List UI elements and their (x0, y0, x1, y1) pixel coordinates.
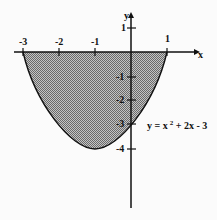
equation-base: y = x (147, 120, 168, 131)
x-tick-label: -3 (19, 36, 27, 47)
equation-rest: + 2x - 3 (173, 120, 207, 131)
y-tick-label: -1 (116, 71, 124, 82)
x-tick-label: 1 (165, 33, 170, 44)
x-tick-label: -1 (91, 36, 99, 47)
y-tick-label: -2 (116, 94, 124, 105)
y-tick-label: -3 (116, 118, 124, 129)
y-tick-label: 1 (121, 22, 126, 33)
y-tick-label: -4 (116, 143, 124, 154)
equation-label: y = x2 + 2x - 3 (147, 119, 207, 131)
y-axis-label: y (124, 10, 129, 21)
x-tick-label: -2 (55, 36, 63, 47)
parabola-chart: x y -3 -2 -1 1 1 -1 -2 -3 -4 y = x2 + 2x… (0, 0, 217, 220)
x-axis-label: x (198, 49, 203, 60)
shaded-area (23, 52, 167, 149)
